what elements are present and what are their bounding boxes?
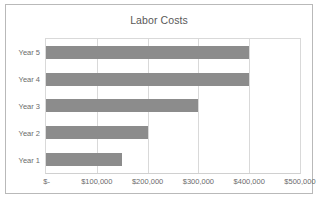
category-label: Year 1 [19,155,40,164]
category-label: Year 5 [19,48,40,57]
category-label: Year 3 [19,102,40,111]
category-label: Year 2 [19,128,40,137]
chart-container[interactable]: Labor Costs Year 5Year 4Year 3Year 2Year… [5,4,313,194]
plot-area [45,38,301,174]
bar[interactable] [46,73,249,86]
category-label: Year 4 [19,75,40,84]
bar-row [46,119,300,146]
bar-row [46,39,300,66]
chart-screenshot: Labor Costs Year 5Year 4Year 3Year 2Year… [0,0,323,201]
value-tick-label: $400,000 [234,177,265,186]
value-axis: $-$100,000$200,000$300,000$400,000$500,0… [45,177,301,191]
bar[interactable] [46,46,249,59]
category-axis: Year 5Year 4Year 3Year 2Year 1 [6,38,43,174]
value-tick-label: $200,000 [132,177,163,186]
value-tick-label: $500,000 [284,177,315,186]
chart-title: Labor Costs [6,14,312,26]
value-tick-label: $100,000 [81,177,112,186]
value-tick-label: $- [43,177,50,186]
bar[interactable] [46,126,148,139]
value-tick-label: $300,000 [183,177,214,186]
bar-series [46,39,300,173]
bar-row [46,146,300,173]
bar[interactable] [46,99,198,112]
bar-row [46,93,300,120]
bar[interactable] [46,153,122,166]
bar-row [46,66,300,93]
